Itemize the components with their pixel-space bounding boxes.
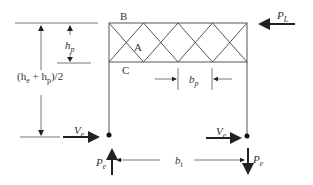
right-support-node xyxy=(245,134,250,139)
label-hp: hp xyxy=(65,39,75,54)
label-PL: PL xyxy=(276,9,289,24)
label-Pe-left: Pe xyxy=(95,156,107,171)
load-arrows xyxy=(63,24,295,175)
label-A: A xyxy=(134,41,142,53)
dimension-lines xyxy=(15,23,244,160)
label-bp: bp xyxy=(189,73,199,88)
label-B: B xyxy=(120,10,127,22)
left-support-node xyxy=(107,133,112,138)
truss-diagram: B A C hp (he + hp)/2 bp bt PL Ve Ve Pe P… xyxy=(0,0,313,185)
label-bt: bt xyxy=(175,154,184,169)
label-Pe-right: Pe xyxy=(252,153,264,168)
label-half-height: (he + hp)/2 xyxy=(17,70,63,85)
label-C: C xyxy=(122,64,129,76)
